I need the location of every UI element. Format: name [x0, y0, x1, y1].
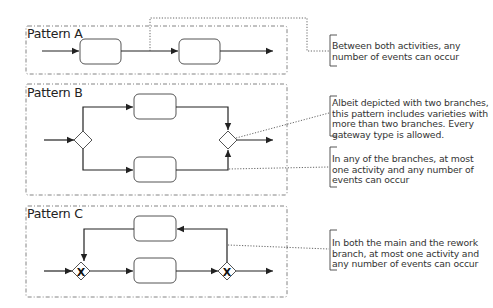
activity-box-upper[interactable]	[134, 94, 176, 119]
annotation-connector	[150, 18, 329, 51]
pattern-c-label: Pattern C	[27, 206, 83, 221]
split-gateway[interactable]	[74, 131, 92, 149]
annotation-pattern-a: Between both activities, any number of e…	[332, 41, 492, 62]
annotation-connector	[228, 245, 329, 249]
annotation-pattern-b-branches: In any of the branches, at most one acti…	[332, 154, 482, 186]
xor-marker-icon: X	[77, 266, 86, 279]
activity-box-main[interactable]	[134, 258, 176, 283]
activity-box[interactable]	[179, 39, 220, 64]
sequence-flow	[83, 107, 133, 131]
pattern-b-group	[26, 84, 337, 195]
sequence-flow	[176, 107, 228, 130]
xor-marker-icon: X	[223, 266, 232, 279]
rework-flow	[84, 229, 134, 261]
annotation-connector	[229, 167, 329, 169]
annotation-pattern-b-gateway: Albeit depicted with two branches, this …	[332, 98, 490, 141]
sequence-flow	[83, 149, 133, 170]
activity-box[interactable]	[80, 39, 121, 64]
join-gateway[interactable]	[219, 131, 237, 149]
activity-box-rework[interactable]	[134, 216, 176, 241]
annotation-pattern-c: In both the main and the rework branch, …	[332, 238, 492, 270]
rework-flow	[177, 229, 227, 262]
activity-box-lower[interactable]	[134, 157, 176, 182]
annotation-connector	[236, 113, 329, 138]
pattern-a-label: Pattern A	[27, 26, 83, 41]
sequence-flow	[176, 150, 228, 170]
pattern-b-label: Pattern B	[27, 85, 83, 100]
